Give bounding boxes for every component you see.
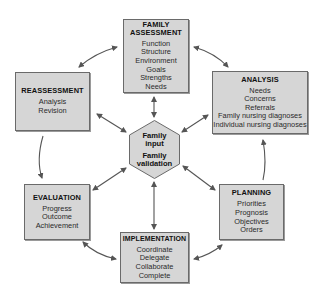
node-implementation: IMPLEMENTATION Coordinate Delegate Colla…	[120, 232, 189, 283]
node-item: Revision	[38, 107, 66, 116]
node-title: REASSESSMENT	[21, 87, 83, 95]
node-items: Analysis Revision	[38, 98, 66, 115]
title-line: ASSESSMENT	[130, 29, 182, 37]
center-label: Family input Family validation	[129, 120, 180, 179]
node-item: Individual nursing diagnoses	[213, 121, 306, 130]
node-item: Needs	[135, 83, 177, 92]
node-items: Function Structure Environment Goals Str…	[135, 40, 177, 92]
node-planning: PLANNING Priorities Prognosis Objectives…	[219, 184, 284, 240]
node-title: ANALYSIS	[241, 76, 279, 84]
node-item: Orders	[234, 226, 269, 235]
node-reassessment: REASSESSMENT Analysis Revision	[15, 72, 90, 131]
node-item: Complete	[136, 272, 174, 281]
node-items: Coordinate Delegate Collaborate Complete	[136, 246, 174, 280]
node-items: Needs Concerns Referrals Family nursing …	[213, 87, 306, 130]
node-item: Achievement	[36, 222, 79, 231]
node-title: EVALUATION	[33, 194, 81, 202]
node-evaluation: EVALUATION Progress Outcome Achievement	[24, 184, 90, 240]
node-title: IMPLEMENTATION	[123, 235, 186, 243]
center-line: validation	[137, 160, 172, 168]
node-items: Priorities Prognosis Objectives Orders	[234, 200, 269, 234]
node-family-assessment: FAMILY ASSESSMENT Function Structure Env…	[123, 19, 189, 93]
node-title: FAMILY ASSESSMENT	[130, 21, 182, 37]
center-line: input	[145, 140, 164, 148]
node-title: PLANNING	[232, 189, 271, 197]
node-items: Progress Outcome Achievement	[36, 205, 79, 231]
node-analysis: ANALYSIS Needs Concerns Referrals Family…	[212, 71, 308, 134]
